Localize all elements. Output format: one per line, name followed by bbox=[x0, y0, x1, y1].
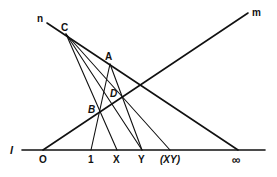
label-point-A: A bbox=[105, 51, 112, 62]
label-point-D: D bbox=[110, 88, 117, 99]
label-point-C: C bbox=[61, 22, 68, 33]
line-n bbox=[47, 23, 238, 150]
label-line-m: m bbox=[252, 7, 261, 18]
label-point-O: O bbox=[39, 154, 47, 165]
line-C-to-XY bbox=[66, 34, 170, 150]
label-line-l: l bbox=[10, 144, 14, 156]
label-point-X: X bbox=[113, 154, 120, 165]
label-point-B: B bbox=[88, 104, 95, 115]
line-m bbox=[43, 13, 248, 150]
label-point-infinity: ∞ bbox=[232, 153, 241, 167]
line-A-to-Y bbox=[110, 64, 142, 150]
label-point-Y: Y bbox=[138, 154, 145, 165]
label-line-n: n bbox=[37, 13, 43, 24]
label-point-XY: (XY) bbox=[160, 154, 181, 165]
projective-multiplication-diagram: n m l C A B D O 1 X Y (XY) ∞ bbox=[0, 0, 277, 177]
label-point-1: 1 bbox=[88, 154, 94, 165]
